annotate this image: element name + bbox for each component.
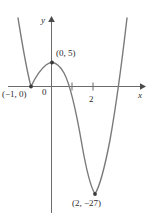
polynomial-curve: [18, 18, 127, 194]
point-marker-left-root: [29, 85, 33, 89]
point-marker-y-intercept: [50, 61, 54, 65]
graph-canvas: [0, 0, 149, 213]
graph-figure: y x 0 2 (−1, 0) (0, 5) (2, −27): [0, 0, 149, 213]
point-label-minimum: (2, −27): [72, 199, 101, 208]
x-axis-arrow-icon: [140, 83, 146, 90]
x-axis-label: x: [138, 91, 142, 100]
y-axis-label: y: [41, 16, 45, 25]
x-tick-label-2: 2: [89, 95, 94, 104]
point-marker-minimum: [93, 192, 97, 196]
point-label-y-intercept: (0, 5): [56, 49, 76, 58]
origin-label: 0: [42, 88, 47, 97]
point-label-left-root: (−1, 0): [2, 90, 27, 99]
y-axis-arrow-icon: [48, 16, 55, 22]
